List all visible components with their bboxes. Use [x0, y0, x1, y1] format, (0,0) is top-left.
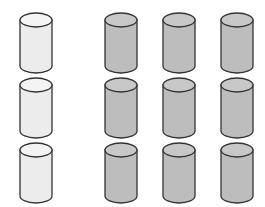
cylinder-light — [20, 143, 52, 203]
cylinder-grid — [0, 0, 265, 207]
cylinder-light — [20, 13, 52, 73]
cylinder-gray — [163, 78, 195, 138]
cylinder-gray — [105, 13, 137, 73]
cylinder-gray — [221, 143, 253, 203]
cylinder-gray — [105, 78, 137, 138]
cylinder-light — [20, 78, 52, 138]
cylinder-gray — [221, 78, 253, 138]
cylinder-gray — [163, 143, 195, 203]
cylinder-gray — [221, 13, 253, 73]
cylinder-gray — [105, 143, 137, 203]
cylinder-gray — [163, 13, 195, 73]
